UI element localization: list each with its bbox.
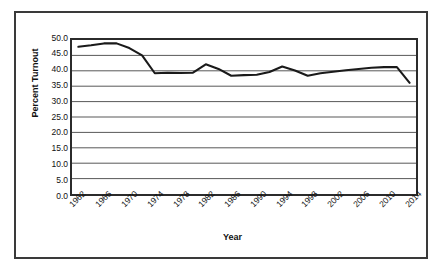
- chart-plot-wrapper: Percent Turnout 0.05.010.015.020.025.030…: [0, 0, 443, 272]
- x-axis-tick-label: 2002: [325, 189, 345, 209]
- x-axis-tick-label: 1966: [93, 189, 113, 209]
- x-axis-title-text: Year: [223, 232, 242, 242]
- x-axis-tick-label: 2006: [351, 189, 371, 209]
- x-axis-tick-label: 1962: [67, 189, 87, 209]
- x-axis-tick-label: 1982: [196, 189, 216, 209]
- chart-figure: Percent Turnout 0.05.010.015.020.025.030…: [0, 0, 443, 272]
- x-axis-tick-label: 1990: [248, 189, 268, 209]
- x-axis-tick-label: 1974: [145, 189, 165, 209]
- x-axis-tick-label: 1978: [171, 189, 191, 209]
- x-axis-title: Year: [0, 232, 443, 242]
- x-axis-tick-label: 1994: [274, 189, 294, 209]
- x-axis-tick-label: 2010: [377, 189, 397, 209]
- x-axis-tick-label: 1970: [119, 189, 139, 209]
- x-axis-tick-label: 1998: [299, 189, 319, 209]
- x-axis-tick-label: 2014: [403, 189, 423, 209]
- x-axis-tick-label: 1986: [222, 189, 242, 209]
